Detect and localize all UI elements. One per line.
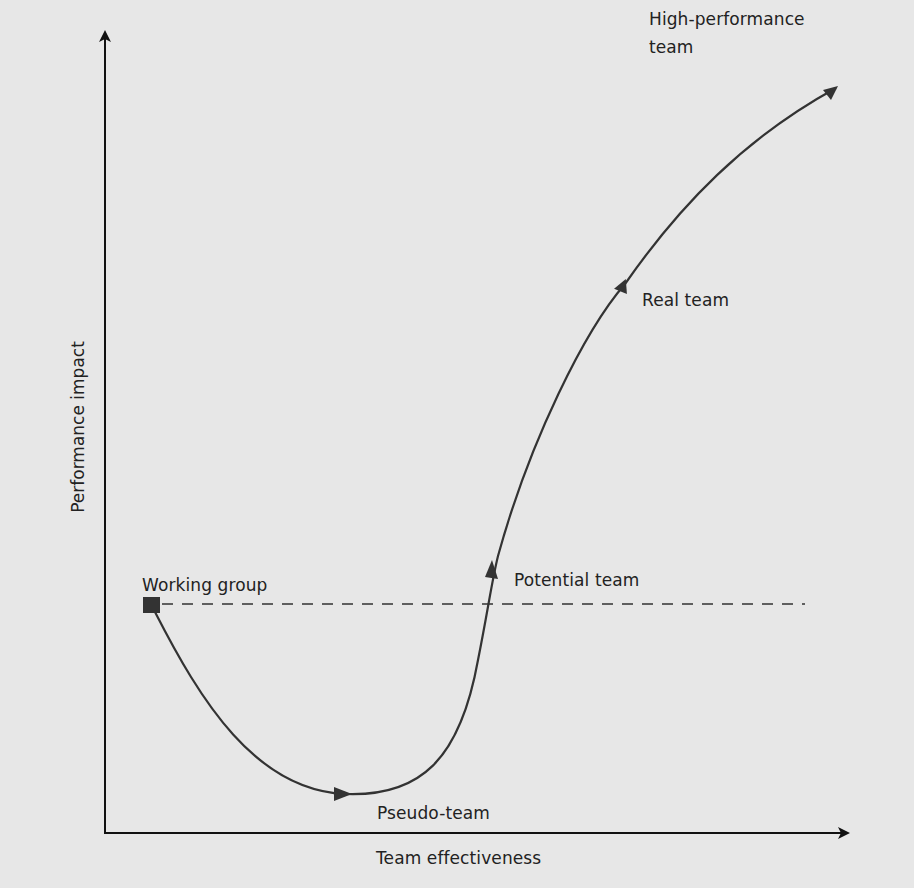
x-axis-label: Team effectiveness: [376, 847, 541, 869]
y-axis-label: Performance impact: [68, 341, 88, 513]
diagram-canvas: [0, 0, 914, 888]
performance-curve: [155, 88, 836, 794]
label-potential-team: Potential team: [514, 569, 639, 591]
label-high-performance-team-line1: High-performance: [649, 8, 805, 30]
working-group-marker: [143, 597, 160, 613]
team-performance-curve-diagram: High-performance team Real team Potentia…: [0, 0, 914, 888]
arrowhead-icon: [613, 279, 628, 296]
label-working-group: Working group: [142, 574, 267, 596]
label-high-performance-team-line2: team: [649, 36, 694, 58]
arrowhead-icon: [334, 787, 352, 801]
label-real-team: Real team: [642, 289, 729, 311]
label-pseudo-team: Pseudo-team: [377, 802, 490, 824]
